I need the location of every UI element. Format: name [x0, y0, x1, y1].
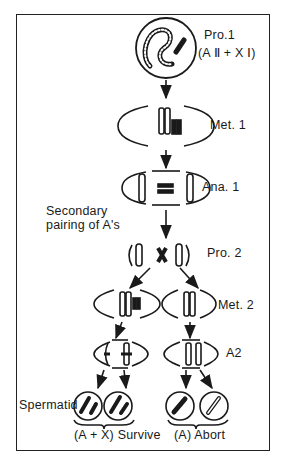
abort-label: (A) Abort	[174, 428, 225, 442]
arrow-icon	[200, 370, 212, 388]
arrow-icon	[98, 370, 104, 388]
met2-label: Met. 2	[218, 298, 254, 312]
pro1-cell-icon	[136, 18, 196, 78]
pro1-label: Pro.1	[204, 28, 235, 42]
met2-right-spindle-icon	[162, 290, 216, 318]
survive-label: (A + X) Survive	[74, 428, 161, 442]
secondary-pairing-line2: pairing of A's	[46, 218, 120, 232]
spermatid-1-icon	[74, 392, 102, 420]
a2-label: A2	[226, 346, 242, 360]
met1-spindle-icon	[118, 106, 214, 146]
arrow-icon	[124, 370, 126, 388]
pro2-chromosomes-icon	[129, 244, 189, 266]
spermatid-label: Spermatid	[19, 398, 78, 412]
pro1-sublabel: (A Ⅱ + X Ⅰ)	[198, 45, 256, 60]
spermatid-3-icon	[166, 392, 194, 420]
spermatid-4-icon	[200, 392, 228, 420]
ana1-label: Ana. 1	[202, 180, 239, 194]
a2-left-spindle-icon	[94, 340, 148, 368]
arrow-icon	[180, 268, 198, 288]
a2-right-spindle-icon	[164, 340, 218, 368]
ana1-spindle-icon	[122, 171, 210, 205]
meiosis-diagram	[0, 0, 284, 464]
arrow-icon	[130, 268, 150, 288]
pro2-label: Pro. 2	[207, 246, 242, 260]
secondary-pairing-line1: Secondary	[46, 204, 108, 218]
arrow-icon	[116, 322, 122, 338]
spermatid-2-icon	[104, 392, 132, 420]
met2-left-spindle-icon	[94, 290, 160, 318]
met1-label: Met. 1	[210, 118, 246, 132]
